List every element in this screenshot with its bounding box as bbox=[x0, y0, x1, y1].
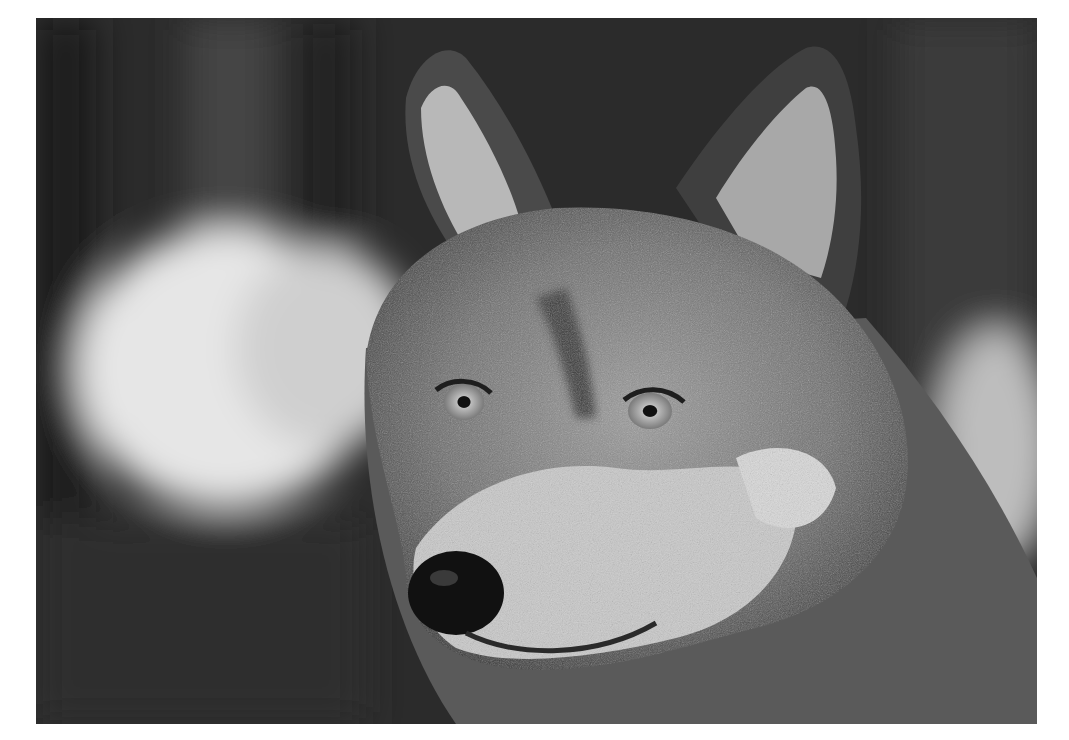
left-eye bbox=[444, 384, 484, 420]
right-eye bbox=[628, 393, 672, 429]
wolf-photo bbox=[36, 18, 1037, 724]
nose bbox=[408, 551, 504, 635]
wolf-illustration bbox=[36, 18, 1037, 724]
